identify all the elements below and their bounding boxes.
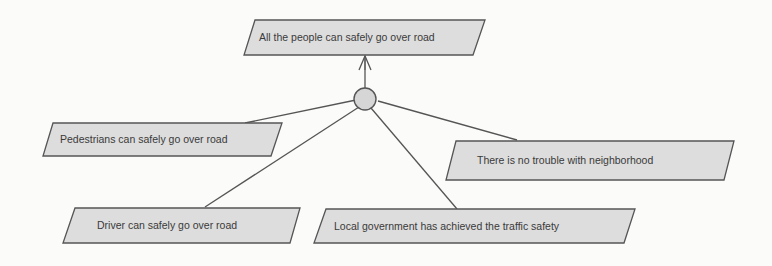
node-driver-label: Driver can safely go over road (97, 220, 237, 231)
node-neighborhood-label: There is no trouble with neighborhood (477, 155, 653, 166)
node-pedestrians-label: Pedestrians can safely go over road (60, 134, 228, 145)
edge-driver (205, 107, 359, 207)
junction-circle[interactable] (354, 88, 376, 110)
node-root-label: All the people can safely go over road (259, 32, 435, 43)
node-government-label: Local government has achieved the traffi… (334, 221, 559, 232)
edge-government (371, 108, 457, 209)
edge-neighborhood (378, 101, 517, 140)
